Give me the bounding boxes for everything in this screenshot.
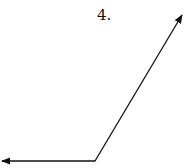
- angle-diagram: [0, 0, 190, 168]
- upper-right-ray: [95, 15, 182, 161]
- vertex-point: [94, 160, 95, 161]
